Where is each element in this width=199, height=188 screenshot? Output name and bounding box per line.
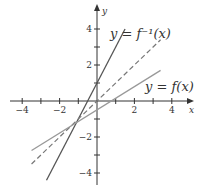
x-tick-label: −4 xyxy=(16,105,30,115)
x-tick-label: −2 xyxy=(53,105,66,115)
y-tick-label: −4 xyxy=(79,168,93,178)
x-axis-label: x xyxy=(189,105,194,115)
inverse-function-graph: −4−22442−2−4xyy = f⁻¹(x)y = f(x) xyxy=(0,0,199,188)
y-tick-label: 4 xyxy=(86,24,92,34)
y-tick-label: 2 xyxy=(86,60,92,70)
y-tick-label: −2 xyxy=(79,132,92,142)
y-axis-arrow-icon xyxy=(94,4,100,11)
x-tick-label: 2 xyxy=(132,105,138,115)
series-line xyxy=(32,70,161,150)
x-axis-arrow-icon xyxy=(187,98,194,104)
series-lines xyxy=(32,29,161,180)
inverse-function-label: y = f⁻¹(x) xyxy=(109,26,171,41)
y-axis-label: y xyxy=(101,6,108,16)
series-line xyxy=(32,40,161,164)
function-label: y = f(x) xyxy=(144,79,194,94)
labels: −4−22442−2−4xyy = f⁻¹(x)y = f(x) xyxy=(16,6,195,178)
x-tick-label: 4 xyxy=(169,105,175,115)
